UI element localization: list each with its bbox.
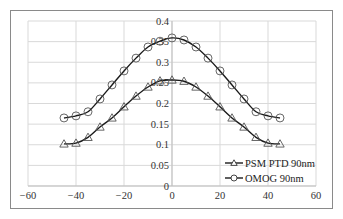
y-tick-label: 0.3 <box>156 57 169 68</box>
y-tick-label: 0.4 <box>156 16 170 27</box>
legend-item: OMOG 90nm <box>225 173 304 184</box>
line-chart: 00.050.10.150.20.250.30.350.4 −60−40−200… <box>0 0 343 219</box>
legend-label: OMOG 90nm <box>245 173 304 184</box>
legend-item: PSM PTD 90nm <box>225 158 315 169</box>
x-tick-label: −60 <box>20 190 36 201</box>
x-tick-label: 20 <box>215 190 226 201</box>
legend: PSM PTD 90nmOMOG 90nm <box>225 158 315 184</box>
y-tick-label: 0.05 <box>151 160 169 171</box>
y-tick-label: 0.2 <box>156 98 169 109</box>
x-tick-label: 0 <box>169 190 174 201</box>
legend-label: PSM PTD 90nm <box>245 158 315 169</box>
y-tick-label: 0.15 <box>151 119 169 130</box>
y-tick-label: 0 <box>164 181 169 192</box>
x-tick-label: 40 <box>263 190 274 201</box>
circle-marker-icon <box>231 175 237 181</box>
y-tick-label: 0.1 <box>156 139 169 150</box>
x-tick-label: −20 <box>116 190 132 201</box>
x-tick-label: −40 <box>68 190 84 201</box>
x-tick-label: 60 <box>311 190 322 201</box>
x-axis-tick-labels: −60−40−200204060 <box>20 190 321 201</box>
y-tick-label: 0.25 <box>151 77 169 88</box>
